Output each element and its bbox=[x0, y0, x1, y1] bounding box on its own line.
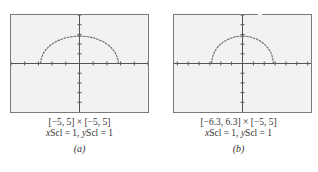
calculator-screen-b bbox=[173, 14, 312, 113]
calculator-screen-a bbox=[10, 14, 149, 113]
window-caption-a: [−5, 5] × [−5, 5] bbox=[0, 117, 159, 128]
scale-caption-b: xScl = 1, yScl = 1 bbox=[159, 128, 318, 139]
graph-plot-b bbox=[174, 15, 311, 112]
graph-panel-b: [−6.3, 6.3] × [−5, 5] xScl = 1, yScl = 1… bbox=[159, 0, 318, 172]
graph-plot-a bbox=[11, 15, 148, 112]
window-caption-b: [−6.3, 6.3] × [−5, 5] bbox=[159, 117, 318, 128]
graph-panel-a: [−5, 5] × [−5, 5] xScl = 1, yScl = 1 (a) bbox=[0, 0, 159, 172]
frame-notch bbox=[258, 13, 262, 15]
panel-label-a: (a) bbox=[0, 143, 159, 154]
scale-caption-a: xScl = 1, yScl = 1 bbox=[0, 128, 159, 139]
panel-label-b: (b) bbox=[159, 143, 318, 154]
